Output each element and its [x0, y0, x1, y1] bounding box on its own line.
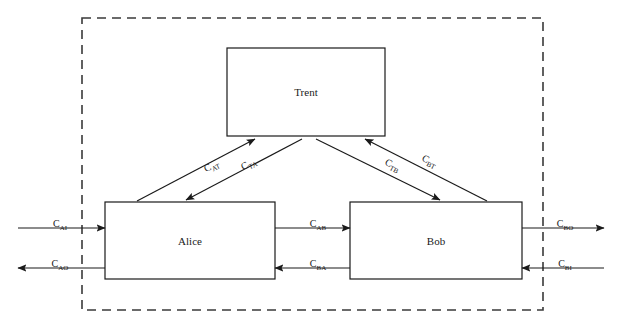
node-label-trent: Trent [294, 86, 317, 98]
edge-label-external-in-bob: CBI [558, 258, 572, 271]
edge-label-alice-out-external: CAO [52, 258, 69, 271]
node-label-alice: Alice [178, 235, 202, 247]
edge-label-sub-ao: AO [58, 263, 68, 271]
edge-label-sub-at: AT [210, 162, 222, 173]
edge-label-sub-tb: TB [388, 164, 400, 175]
diagram-canvas: Trent Alice Bob CAT CT [0, 0, 619, 324]
edge-label-alice-to-trent: CAT [202, 157, 222, 176]
edge-line-trent-to-bob [316, 139, 440, 200]
edge-label-sub-ba: BA [316, 263, 326, 271]
edge-label-external-in-alice: CAI [53, 218, 68, 231]
edge-label-bob-out-external: CBO [557, 218, 573, 231]
node-label-bob: Bob [427, 235, 446, 247]
edge-label-bob-to-alice: CBA [310, 258, 326, 271]
edge-label-alice-to-bob: CAB [310, 218, 327, 231]
edge-line-alice-to-trent [137, 139, 255, 201]
edge-label-sub-bo: BO [563, 223, 573, 231]
edge-label-sub-ta: TA [247, 160, 258, 171]
protocol-diagram: Trent Alice Bob CAT CT [0, 0, 619, 324]
edge-label-sub-ai: AI [60, 223, 68, 231]
edge-line-bob-to-trent [365, 139, 487, 201]
edge-label-sub-ab: AB [316, 223, 326, 231]
edge-label-sub-bt: BT [425, 160, 437, 172]
edge-label-sub-bi: BI [565, 263, 573, 271]
edge-label-trent-to-bob: CTB [382, 156, 402, 175]
